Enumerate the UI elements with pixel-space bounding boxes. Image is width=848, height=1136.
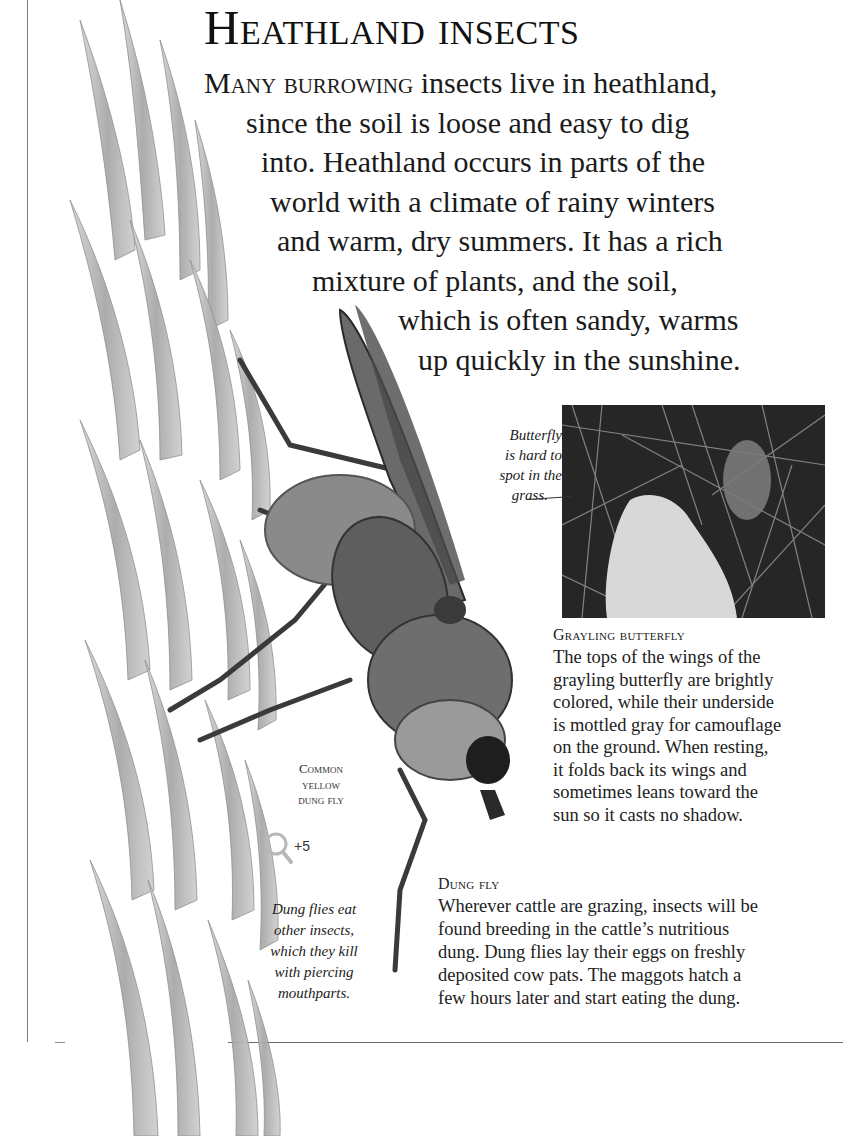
magnification-badge: +5	[264, 830, 324, 870]
page-title: Heathland insects	[204, 2, 579, 54]
grayling-caption: Grayling butterfly The tops of the wings…	[553, 624, 843, 826]
butterfly-callout: Butterfly is hard to spot in the grass.	[462, 425, 562, 505]
intro-paragraph: Many burrowing insects live in heathland…	[200, 63, 840, 379]
magnification-value: +5	[294, 838, 310, 854]
bottom-rule	[228, 1042, 843, 1043]
fly-species-label: Common yellow dung fly	[270, 761, 372, 808]
grayling-body: The tops of the wings of the grayling bu…	[553, 646, 843, 826]
magnifier-icon	[264, 830, 294, 870]
dung-fly-note: Dung flies eat other insects, which they…	[254, 899, 374, 1004]
page-margin-rule	[27, 0, 28, 1042]
grayling-heading: Grayling butterfly	[553, 624, 843, 646]
intro-lead: Many burrowing	[204, 66, 413, 99]
dung-fly-caption: Dung fly Wherever cattle are grazing, in…	[438, 873, 848, 1010]
dung-fly-body: Wherever cattle are grazing, insects wil…	[438, 895, 848, 1010]
grayling-butterfly-photo	[562, 405, 825, 618]
dung-fly-heading: Dung fly	[438, 873, 848, 895]
